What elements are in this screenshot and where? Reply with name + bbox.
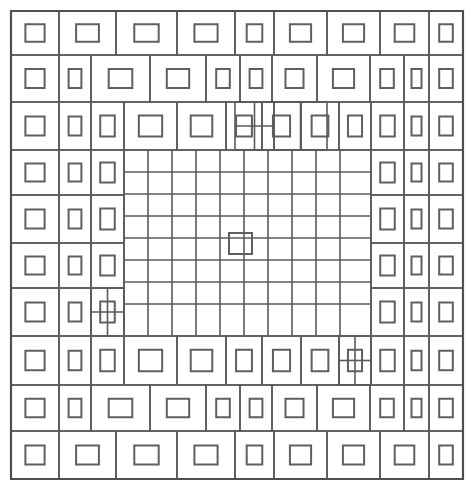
pattern-cell-inner-rect: [273, 115, 290, 136]
pattern-cell-inner-rect: [380, 399, 394, 417]
pattern-cell-inner-rect: [412, 399, 422, 417]
pattern-cell-inner-rect: [25, 302, 44, 321]
outer-frame-rect: [11, 11, 463, 479]
pattern-cell-inner-rect: [348, 115, 362, 136]
pattern-cell: [371, 102, 404, 150]
pattern-cell: [59, 195, 91, 243]
pattern-cell-inner-rect: [412, 164, 422, 182]
pattern-cell-inner-rect: [343, 24, 364, 42]
pattern-cell: [371, 243, 404, 288]
pattern-cell: [177, 102, 226, 150]
pattern-cell: [91, 243, 124, 288]
pattern-cell-inner-rect: [380, 350, 395, 372]
pattern-cell: [11, 243, 59, 288]
pattern-cell-inner-rect: [216, 69, 230, 88]
pattern-cell-inner-rect: [69, 69, 82, 88]
pattern-cell: [206, 55, 240, 102]
pattern-cell-inner-rect: [69, 302, 82, 321]
pattern-cell-inner-rect: [25, 164, 44, 182]
pattern-cell-inner-rect: [25, 399, 44, 417]
pattern-cell-inner-rect: [25, 257, 44, 275]
center-square: [229, 233, 252, 254]
pattern-cell: [404, 150, 429, 195]
pattern-cell-inner-rect: [194, 24, 217, 42]
pattern-cell: [327, 11, 380, 55]
pattern-cell-inner-rect: [69, 257, 82, 275]
pattern-cell: [371, 195, 404, 243]
pattern-cell: [429, 243, 463, 288]
pattern-cell: [59, 288, 91, 336]
pattern-cell: [59, 336, 91, 385]
pattern-cell-inner-rect: [412, 116, 422, 135]
pattern-cell: [59, 243, 91, 288]
pattern-cell: [429, 336, 463, 385]
pattern-cell: [124, 102, 177, 150]
pattern-cell: [206, 385, 240, 431]
pattern-cell-inner-rect: [167, 399, 189, 417]
pattern-cell: [339, 102, 371, 150]
pattern-cell-inner-rect: [290, 24, 311, 42]
pattern-cell-inner-rect: [439, 351, 453, 371]
pattern-cell: [177, 11, 235, 55]
core-grid-boundary: [124, 150, 371, 336]
pattern-cell-inner-rect: [69, 209, 82, 228]
pattern-cell: [11, 55, 59, 102]
pattern-cell: [272, 55, 317, 102]
pattern-cell: [59, 385, 91, 431]
pattern-cell: [124, 336, 177, 385]
pattern-cell: [274, 431, 327, 479]
pattern-cell: [11, 288, 59, 336]
pattern-cell-inner-rect: [191, 350, 213, 372]
pattern-cell: [301, 336, 339, 385]
pattern-cell: [380, 431, 429, 479]
pattern-cell-inner-rect: [247, 24, 263, 42]
pattern-cell: [11, 336, 59, 385]
pattern-cell-inner-rect: [439, 69, 453, 88]
pattern-cell: [11, 195, 59, 243]
pattern-cell-inner-rect: [236, 350, 252, 372]
pattern-cell: [177, 431, 235, 479]
corner-accents-layer: [91, 102, 371, 385]
pattern-cell: [91, 102, 124, 150]
pattern-cell-inner-rect: [69, 351, 82, 371]
pattern-cell: [262, 336, 301, 385]
pattern-cell: [116, 11, 177, 55]
pattern-cell: [404, 288, 429, 336]
pattern-cell-inner-rect: [333, 69, 354, 88]
pattern-cell-inner-rect: [333, 399, 354, 417]
pattern-cell-inner-rect: [395, 445, 415, 464]
pattern-cell-inner-rect: [380, 163, 395, 183]
pattern-cell: [59, 431, 116, 479]
pattern-cell-inner-rect: [412, 351, 422, 371]
pattern-cell: [429, 102, 463, 150]
pattern-cell-inner-rect: [439, 24, 453, 42]
pattern-cell-inner-rect: [250, 69, 263, 88]
pattern-cell-inner-rect: [286, 69, 304, 88]
pattern-cell-inner-rect: [380, 301, 395, 322]
pattern-cell-inner-rect: [69, 116, 82, 135]
pattern-cell-inner-rect: [194, 445, 217, 464]
pattern-cell-inner-rect: [69, 399, 82, 417]
pattern-cell-inner-rect: [250, 399, 263, 417]
ring-1: [11, 11, 463, 479]
pattern-cell: [91, 55, 150, 102]
pattern-cell-inner-rect: [380, 208, 395, 229]
pattern-cell-inner-rect: [100, 163, 115, 183]
pattern-cell-inner-rect: [100, 115, 115, 136]
pattern-cell: [429, 431, 463, 479]
pattern-cell: [59, 150, 91, 195]
pattern-cell: [91, 385, 150, 431]
pattern-cell: [371, 288, 404, 336]
pattern-cell-inner-rect: [191, 115, 213, 136]
pattern-cell: [91, 336, 124, 385]
pattern-cell: [404, 195, 429, 243]
pattern-cell: [177, 336, 226, 385]
pattern-cell-inner-rect: [380, 69, 394, 88]
pattern-cell-inner-rect: [439, 257, 453, 275]
pattern-cell-inner-rect: [109, 69, 133, 88]
pattern-cell-inner-rect: [25, 351, 44, 371]
pattern-cell: [150, 55, 206, 102]
pattern-cell: [429, 11, 463, 55]
pattern-cell: [11, 102, 59, 150]
ring-3: [91, 102, 404, 385]
